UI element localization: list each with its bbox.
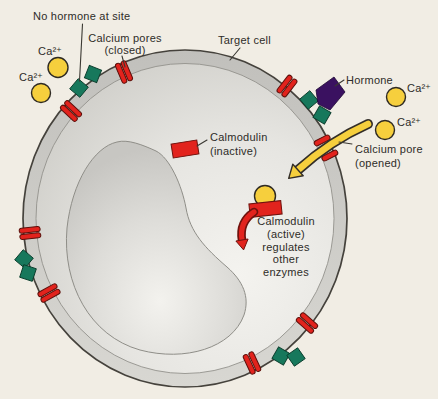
label-calcium-ion: Ca²⁺ (397, 116, 422, 128)
label-calcium-pore-opened: Calcium pore (355, 143, 423, 155)
label-calmodulin-inactive-sub: (inactive) (210, 145, 257, 157)
label-calmodulin-active-4: other (273, 253, 299, 265)
label-calcium-ion: Ca²⁺ (407, 82, 432, 94)
cell-diagram-canvas: No hormone at site Calcium pores (closed… (0, 0, 438, 399)
label-calcium-pore-opened-sub: (opened) (355, 157, 401, 169)
label-calcium-ion: Ca²⁺ (38, 45, 63, 57)
calcium-ion (32, 84, 51, 103)
label-calmodulin-active-3: regulates (262, 241, 310, 253)
diagram-stage: No hormone at site Calcium pores (closed… (0, 0, 438, 399)
calcium-ion (387, 88, 406, 107)
label-calmodulin-active-2: (active) (267, 228, 305, 240)
label-hormone: Hormone (346, 74, 393, 86)
label-calmodulin-active-5: enzymes (263, 266, 309, 278)
label-target-cell: Target cell (218, 34, 271, 46)
calcium-ion (376, 121, 395, 140)
label-calmodulin-inactive: Calmodulin (210, 131, 268, 143)
label-no-hormone: No hormone at site (33, 10, 130, 22)
label-calcium-pores-closed: Calcium pores (88, 32, 162, 44)
calcium-ion (48, 58, 68, 78)
label-calmodulin-active-1: Calmodulin (257, 215, 315, 227)
label-calcium-pores-closed-sub: (closed) (104, 44, 145, 56)
label-calcium-ion: Ca²⁺ (19, 71, 44, 83)
